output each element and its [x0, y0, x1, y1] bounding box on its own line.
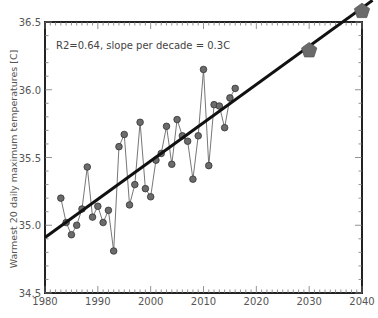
y-tick-label: 36.5: [19, 17, 41, 28]
data-point: [84, 164, 91, 171]
data-point: [73, 222, 80, 229]
data-point: [142, 185, 149, 192]
data-series: [45, 0, 373, 254]
observed-line: [61, 69, 235, 251]
data-point: [121, 131, 128, 138]
data-point: [126, 202, 133, 209]
data-point: [132, 181, 139, 188]
tick-labels: 198019902000201020202030204034.535.035.5…: [19, 17, 375, 307]
data-point: [116, 143, 123, 150]
temperature-trend-chart: 198019902000201020202030204034.535.035.5…: [0, 0, 378, 318]
data-point: [147, 193, 154, 200]
y-axis-label: Warmest 20 daily maximum temperatures [C…: [8, 50, 19, 269]
x-tick-label: 2020: [244, 296, 269, 307]
data-point: [163, 123, 170, 130]
x-tick-label: 2010: [191, 296, 216, 307]
y-tick-label: 35.0: [19, 220, 41, 231]
y-tick-label: 34.5: [19, 288, 41, 299]
data-point: [68, 231, 75, 238]
trend-line: [45, 0, 373, 237]
y-tick-label: 36.0: [19, 85, 41, 96]
data-point: [169, 161, 176, 168]
axis-ticks: [45, 22, 362, 293]
data-point: [137, 119, 144, 126]
data-point: [89, 214, 96, 221]
data-point: [58, 195, 65, 202]
projection-marker: [302, 43, 317, 57]
x-tick-label: 1990: [85, 296, 110, 307]
data-point: [200, 66, 207, 73]
y-tick-label: 35.5: [19, 153, 41, 164]
fit-annotation: R2=0.64, slope per decade = 0.3C: [56, 40, 230, 51]
x-tick-label: 2000: [138, 296, 163, 307]
data-point: [105, 207, 112, 214]
data-point: [100, 219, 107, 226]
x-tick-label: 2040: [349, 296, 374, 307]
data-point: [174, 116, 181, 123]
data-point: [190, 176, 197, 183]
plot-frame: [45, 22, 362, 293]
data-point: [232, 85, 239, 92]
data-point: [221, 124, 228, 131]
data-point: [110, 248, 117, 255]
data-point: [205, 162, 212, 169]
data-point: [184, 138, 191, 145]
data-point: [95, 203, 102, 210]
data-point: [195, 133, 202, 140]
x-tick-label: 2030: [296, 296, 321, 307]
